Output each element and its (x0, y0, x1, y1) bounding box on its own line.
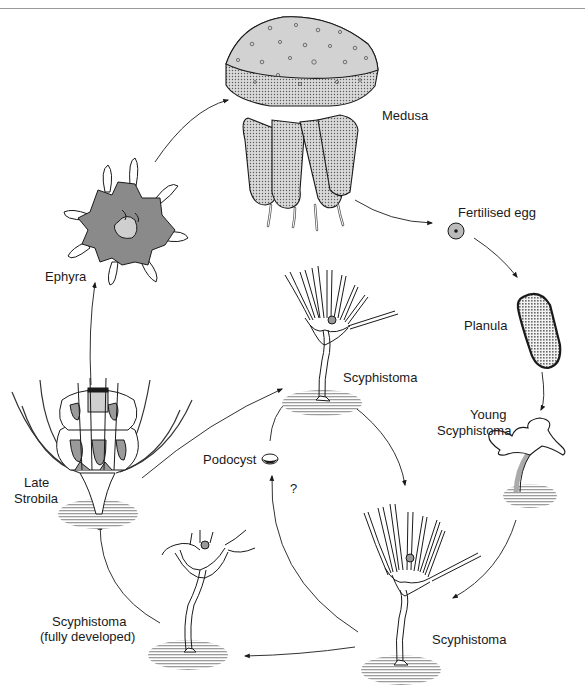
label-scyphistoma-bottom-right: Scyphistoma (432, 632, 507, 647)
label-fully-developed-line2: (fully developed) (40, 629, 135, 644)
scyphistoma-fully-developed-illustration (148, 530, 255, 670)
arrow-fully-developed-to-strobila (100, 525, 160, 623)
arrow-planula-to-young (541, 372, 544, 410)
label-young-scyphistoma-line1: Young (470, 407, 506, 422)
label-fertilised-egg: Fertilised egg (458, 205, 536, 220)
arrow-center-to-bottom-right-scyphistoma (352, 405, 405, 485)
fertilised-egg-illustration (448, 223, 464, 239)
scyphistoma-center-illustration (282, 266, 398, 416)
arrow-scyphistoma-to-fully-developed (245, 647, 355, 656)
ephyra-illustration (64, 158, 188, 285)
arrow-ephyra-to-medusa (155, 100, 228, 162)
arrow-scyphistoma-to-podocyst (272, 476, 358, 632)
medusa-illustration (226, 17, 378, 230)
label-planula: Planula (464, 318, 508, 333)
scyphistoma-bottom-right-illustration (361, 504, 481, 685)
label-fully-developed-line1: Scyphistoma (52, 614, 127, 629)
label-late-strobila-line1: Late (24, 475, 49, 490)
jellyfish-life-cycle-diagram: Medusa Fertilised egg Planula Young Scyp… (0, 0, 585, 696)
label-podocyst: Podocyst (203, 452, 257, 467)
label-medusa: Medusa (382, 108, 429, 123)
late-strobila-illustration (12, 378, 192, 529)
arrow-strobila-to-ephyra (90, 283, 95, 385)
arrow-medusa-to-egg (355, 200, 432, 223)
planula-illustration (518, 294, 560, 368)
label-young-scyphistoma-line2: Scyphistoma (437, 423, 512, 438)
arrow-egg-to-planula (474, 238, 517, 277)
label-ephyra: Ephyra (45, 269, 87, 284)
podocyst-illustration (262, 454, 278, 464)
label-late-strobila-line2: Strobila (14, 491, 59, 506)
question-mark-annotation: ? (290, 481, 297, 496)
label-scyphistoma-center: Scyphistoma (343, 370, 418, 385)
arrow-young-to-scyphistoma (453, 520, 516, 598)
